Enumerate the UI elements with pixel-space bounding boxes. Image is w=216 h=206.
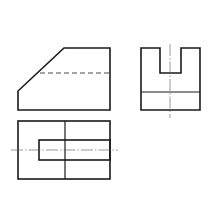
side-view	[141, 44, 200, 118]
front-view-outline	[18, 48, 110, 110]
front-view	[18, 48, 110, 110]
top-view	[11, 121, 118, 179]
orthographic-drawing	[0, 0, 216, 206]
side-view-outline	[141, 48, 200, 110]
